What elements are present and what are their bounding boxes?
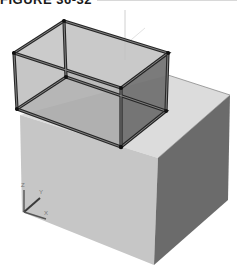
- ucs-x-label: X: [44, 210, 48, 216]
- ucs-y-label: Y: [39, 189, 43, 195]
- ucs-z-label: Z: [21, 182, 25, 188]
- 3d-viewport[interactable]: Z Y X: [0, 0, 244, 280]
